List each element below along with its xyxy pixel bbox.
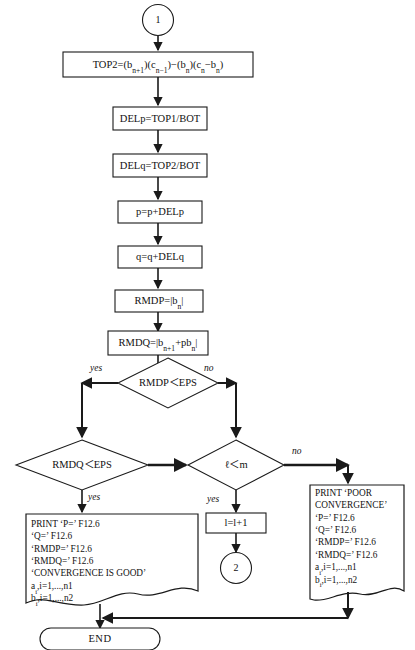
decision-rmdp-no-label: no xyxy=(204,364,214,374)
delq-box-label: DELq=TOP2/BOT xyxy=(120,160,200,171)
flowchart-canvas: 1 TOP2=(bn+1)(cn−1)−(bn)(cn−bn) DELp=TOP… xyxy=(0,0,415,650)
print-good-label: PRINT ‘P=’ F12.6‘Q=’ F12.6‘RMDP=’ F12.6‘… xyxy=(31,518,196,605)
p-update-box-label: p=p+DELp xyxy=(136,206,184,217)
print-poor-label: PRINT ‘POORCONVERGENCE’‘P=’ F12.6‘Q=’ F1… xyxy=(315,487,407,586)
decision-lm-label: ℓ＜m xyxy=(224,459,247,470)
decision-rmdq-label: RMDQ＜EPS xyxy=(52,459,112,470)
rmdp-box-label: RMDP=|bn| xyxy=(135,295,184,306)
decision-lm-yes-label: yes xyxy=(207,495,219,505)
q-update-box-label: q=q+DELq xyxy=(136,251,184,262)
connector-out-label: 2 xyxy=(234,563,239,574)
delp-box-label: DELp=TOP1/BOT xyxy=(120,113,200,124)
decision-rmdp-label: RMDP＜EPS xyxy=(139,377,197,388)
decision-rmdp-yes-label: yes xyxy=(90,364,102,374)
l-increment-box-label: l=l+1 xyxy=(225,517,248,528)
decision-rmdq-yes-label: yes xyxy=(88,493,100,503)
top2-box-label: TOP2=(bn+1)(cn−1)−(bn)(cn−bn) xyxy=(93,59,224,70)
rmdq-box-label: RMDQ=|bn+1+pbn| xyxy=(119,337,198,348)
end-terminator-label: END xyxy=(88,633,111,644)
connector-in-label: 1 xyxy=(156,15,161,26)
decision-lm-no-label: no xyxy=(292,447,302,457)
